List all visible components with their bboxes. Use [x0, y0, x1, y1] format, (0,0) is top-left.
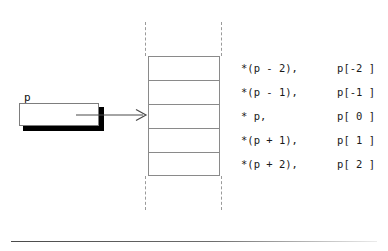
bottom-divider: [11, 241, 377, 242]
dereference-expression: *(p - 1),: [241, 86, 319, 98]
index-expression: p[ 1 ]: [319, 134, 381, 146]
dereference-expression: *(p - 2),: [241, 62, 319, 74]
expression-label-list: *(p - 2), p[-2 ] *(p - 1), p[-1 ] * p, p…: [241, 56, 381, 176]
dereference-expression: * p,: [241, 110, 319, 122]
index-expression: p[-2 ]: [319, 62, 381, 74]
dashed-line-right-bottom: [221, 176, 222, 210]
pointer-arithmetic-diagram: p *(p - 2), p[-2 ] *(p - 1), p[-1 ] * p,…: [0, 0, 388, 251]
memory-cell: [148, 128, 220, 152]
expression-row: *(p - 1), p[-1 ]: [241, 80, 381, 104]
dashed-line-left-bottom: [145, 176, 146, 210]
pointer-arrow-icon: [76, 104, 150, 126]
expression-row: *(p + 1), p[ 1 ]: [241, 128, 381, 152]
expression-row: * p, p[ 0 ]: [241, 104, 381, 128]
memory-cell: [148, 152, 220, 176]
index-expression: p[ 0 ]: [319, 110, 381, 122]
dereference-expression: *(p + 1),: [241, 134, 319, 146]
memory-cell: [148, 80, 220, 104]
memory-cell: [148, 56, 220, 80]
dashed-line-right-top: [221, 22, 222, 56]
index-expression: p[ 2 ]: [319, 158, 381, 170]
memory-cell-stack: [148, 56, 220, 176]
index-expression: p[-1 ]: [319, 86, 381, 98]
memory-cell-pointed: [148, 104, 220, 128]
dashed-line-left-top: [145, 22, 146, 56]
expression-row: *(p - 2), p[-2 ]: [241, 56, 381, 80]
dereference-expression: *(p + 2),: [241, 158, 319, 170]
expression-row: *(p + 2), p[ 2 ]: [241, 152, 381, 176]
